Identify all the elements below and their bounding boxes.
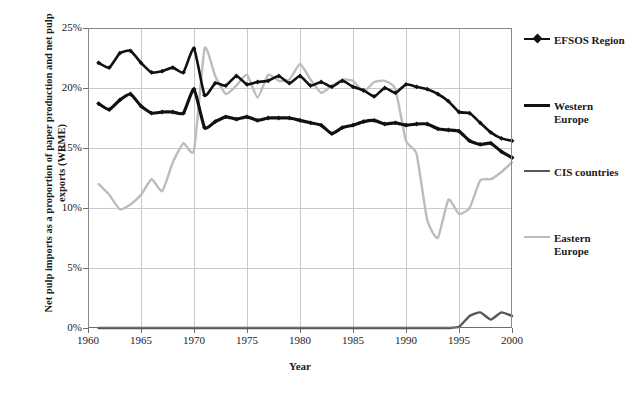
legend-label: Western Europe — [554, 100, 628, 126]
legend-item[interactable]: EFSOS Region — [524, 34, 628, 100]
x-tick-label: 2000 — [488, 334, 536, 346]
legend-swatch — [524, 104, 550, 107]
legend-swatch — [524, 170, 550, 172]
y-tick-label: 15% — [36, 141, 82, 153]
x-tick-label: 1995 — [435, 334, 483, 346]
legend-item[interactable]: Western Europe — [524, 100, 628, 166]
chart-figure: Net pulp imports as a proportion of pape… — [0, 0, 630, 394]
legend-marker-icon — [533, 34, 543, 44]
legend-swatch — [524, 236, 550, 238]
y-tick-label: 10% — [36, 201, 82, 213]
plot-area — [88, 28, 512, 328]
x-tick-label: 1965 — [117, 334, 165, 346]
plot-frame — [88, 28, 512, 328]
x-tick-label: 1970 — [170, 334, 218, 346]
x-tick-label: 1985 — [329, 334, 377, 346]
y-tick-label: 0% — [36, 321, 82, 333]
x-tick-label: 1975 — [223, 334, 271, 346]
legend-item[interactable]: CIS countries — [524, 166, 628, 232]
legend-label: CIS countries — [554, 166, 628, 179]
x-tick-mark — [459, 328, 460, 333]
legend-label: EFSOS Region — [554, 34, 628, 47]
legend-item[interactable]: Eastern Europe — [524, 232, 628, 298]
y-tick-label: 25% — [36, 21, 82, 33]
x-tick-label: 1990 — [382, 334, 430, 346]
x-tick-label: 1980 — [276, 334, 324, 346]
y-tick-label: 20% — [36, 81, 82, 93]
legend: EFSOS RegionWestern EuropeCIS countriesE… — [524, 34, 628, 298]
x-tick-mark — [88, 328, 89, 333]
x-axis-title: Year — [88, 360, 512, 372]
figure-title — [118, 0, 508, 5]
y-tick-label: 5% — [36, 261, 82, 273]
x-tick-mark — [512, 328, 513, 333]
legend-label: Eastern Europe — [554, 232, 628, 258]
x-tick-label: 1960 — [64, 334, 112, 346]
